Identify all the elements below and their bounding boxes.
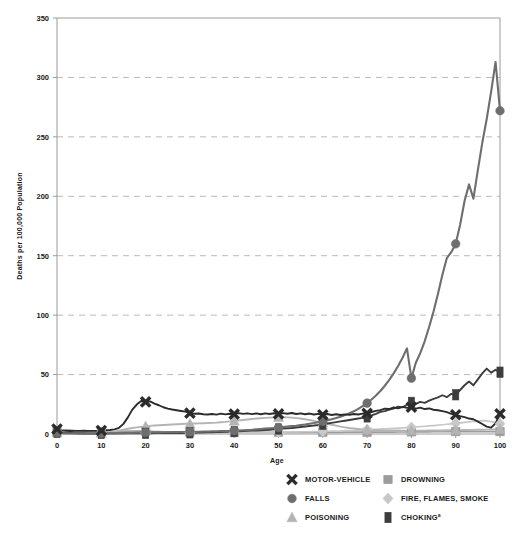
legend-marker-square-icon [384,475,392,483]
y-axis-label: Deaths per 100,000 Population [16,172,24,279]
line-chart: 050100150200250300350 010203040506070809… [0,0,523,536]
y-tick-label: 50 [41,370,49,379]
series-marker-falls [451,240,460,249]
series-marker-choking [453,390,459,400]
x-tick-label: 80 [407,441,415,450]
x-tick-label: 90 [452,441,460,450]
series-marker-falls [407,374,416,383]
legend-label: FALLS [305,494,330,503]
series-marker-falls [363,399,372,408]
legend-marker-rect-icon [385,512,391,522]
y-tick-label: 150 [36,252,49,261]
series-marker-choking [497,367,503,377]
legend-marker-circle-icon [288,494,297,503]
x-tick-label: 70 [363,441,371,450]
x-tick-label: 20 [141,441,149,450]
legend-footnote-marker: a [438,512,441,518]
x-tick-label: 60 [319,441,327,450]
x-tick-label: 30 [186,441,194,450]
series-marker-falls [141,428,150,437]
legend-label: FIRE, FLAMES, SMOKE [401,494,489,503]
y-tick-label: 350 [36,14,49,23]
legend-label: CHOKINGa [401,512,441,522]
legend-item-falls[interactable]: FALLS [288,494,330,503]
x-tick-label: 40 [230,441,238,450]
chart-page: 050100150200250300350 010203040506070809… [0,0,523,536]
y-tick-label: 300 [36,73,49,82]
x-tick-label: 100 [494,441,507,450]
x-tick-label: 0 [55,441,59,450]
y-tick-label: 100 [36,311,49,320]
legend-label: MOTOR-VEHICLE [305,475,370,484]
x-axis-label: Age [270,457,284,465]
x-tick-label: 10 [97,441,105,450]
series-marker-falls [274,423,283,432]
series-marker-falls [230,426,239,435]
y-tick-label: 200 [36,192,49,201]
x-tick-label: 50 [274,441,282,450]
legend-label: POISONING [305,513,349,522]
y-tick-label: 250 [36,133,49,142]
y-tick-label: 0 [45,430,49,439]
series-marker-falls [496,106,505,115]
legend-label: DROWNING [401,475,445,484]
series-marker-falls [186,428,195,437]
